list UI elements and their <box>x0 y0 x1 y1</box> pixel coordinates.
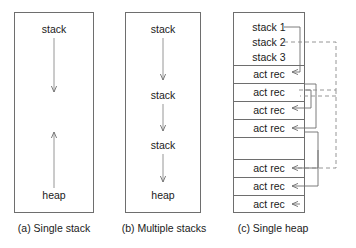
stack-label-b1: stack <box>125 24 201 35</box>
row-act-rec-3: act rec <box>233 105 305 116</box>
figure-memory-layouts: stack heap stack stack stack heap stack … <box>0 0 356 248</box>
row-stack-1: stack 1 <box>233 22 305 33</box>
panel-a-box <box>14 12 94 213</box>
stack-label-b2: stack <box>125 90 201 101</box>
row-act-rec-4: act rec <box>233 123 305 134</box>
heap-label-a: heap <box>14 190 94 201</box>
row-divider-8 <box>233 195 305 196</box>
row-divider-2 <box>233 83 305 84</box>
row-divider-7 <box>233 177 305 178</box>
row-stack-2: stack 2 <box>233 37 305 48</box>
row-divider-3 <box>233 101 305 102</box>
row-act-rec-2: act rec <box>233 87 305 98</box>
row-divider-1 <box>233 65 305 66</box>
heap-label-b: heap <box>125 190 201 201</box>
row-act-rec-1: act rec <box>233 69 305 80</box>
row-divider-4 <box>233 119 305 120</box>
row-stack-3: stack 3 <box>233 52 305 63</box>
caption-panel-b: (b) Multiple stacks <box>112 222 216 234</box>
panel-b-box <box>125 12 201 213</box>
caption-panel-c: (c) Single heap <box>226 222 320 234</box>
caption-panel-a: (a) Single stack <box>6 222 102 234</box>
stack-label-b3: stack <box>125 140 201 151</box>
stack-label-a1: stack <box>14 24 94 35</box>
row-act-rec-5: act rec <box>233 163 305 174</box>
row-act-rec-7: act rec <box>233 199 305 210</box>
row-divider-5 <box>233 137 305 138</box>
row-act-rec-6: act rec <box>233 181 305 192</box>
row-divider-6 <box>233 159 305 160</box>
